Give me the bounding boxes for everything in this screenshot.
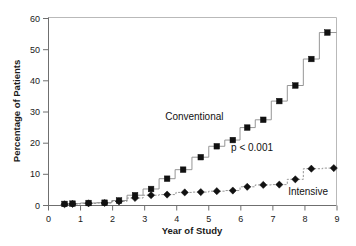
data-point-intensive <box>197 189 204 196</box>
x-tick-label-3: 3 <box>142 214 147 224</box>
y-tick-label-50: 50 <box>30 45 40 55</box>
data-point-intensive <box>147 192 154 199</box>
p-value-annotation: p < 0.001 <box>231 142 273 153</box>
x-axis-title: Year of Study <box>162 225 223 236</box>
y-axis-tick-labels: 0 10 20 30 40 50 60 <box>30 14 40 211</box>
x-axis-ticks <box>49 206 338 211</box>
data-point-conventional <box>260 117 266 123</box>
x-tick-label-0: 0 <box>46 214 51 224</box>
series-label-intensive: Intensive <box>288 186 328 197</box>
data-point-conventional <box>325 30 331 36</box>
x-tick-label-4: 4 <box>174 214 179 224</box>
x-tick-label-1: 1 <box>78 214 83 224</box>
y-axis-title: Percentage of Patients <box>11 60 22 162</box>
data-point-conventional <box>164 176 170 182</box>
data-point-conventional <box>180 167 186 173</box>
chart-figure: 0 10 20 30 40 50 60 0123456789 Year of S… <box>0 0 356 246</box>
y-tick-label-10: 10 <box>30 169 40 179</box>
x-tick-label-2: 2 <box>110 214 115 224</box>
data-point-conventional <box>198 154 204 160</box>
data-point-conventional <box>293 83 299 89</box>
data-point-intensive <box>164 191 171 198</box>
x-tick-label-5: 5 <box>206 214 211 224</box>
series-label-conventional: Conventional <box>165 111 223 122</box>
x-axis-tick-labels: 0123456789 <box>46 214 340 224</box>
x-tick-label-8: 8 <box>302 214 307 224</box>
cumulative-incidence-chart: 0 10 20 30 40 50 60 0123456789 Year of S… <box>0 0 356 246</box>
data-point-intensive <box>292 176 299 183</box>
data-point-conventional <box>277 98 283 104</box>
data-point-intensive <box>276 181 283 188</box>
y-tick-label-40: 40 <box>30 76 40 86</box>
y-axis-ticks <box>43 19 49 206</box>
data-point-intensive <box>308 165 315 172</box>
data-point-intensive <box>244 183 251 190</box>
data-point-conventional <box>244 125 250 131</box>
data-point-conventional <box>309 56 315 62</box>
data-point-intensive <box>181 189 188 196</box>
x-tick-label-6: 6 <box>238 214 243 224</box>
data-point-intensive <box>229 187 236 194</box>
data-point-conventional <box>214 143 220 149</box>
data-point-intensive <box>260 181 267 188</box>
y-tick-label-0: 0 <box>35 201 40 211</box>
data-point-conventional <box>148 186 154 192</box>
y-tick-label-30: 30 <box>30 107 40 117</box>
x-tick-label-9: 9 <box>334 214 339 224</box>
data-point-intensive <box>213 188 220 195</box>
y-tick-label-60: 60 <box>30 14 40 24</box>
x-tick-label-7: 7 <box>270 214 275 224</box>
y-tick-label-20: 20 <box>30 138 40 148</box>
